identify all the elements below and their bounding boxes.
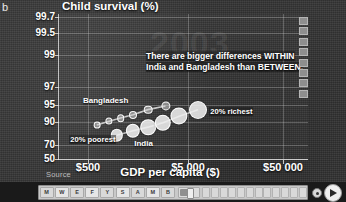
source-label[interactable]: Source [46,170,71,179]
timeline-cell-8[interactable]: B [161,187,175,198]
timeline-cell-1[interactable]: W [55,187,69,198]
plot-region: BangladeshIndia20% poorest20% richest [58,14,308,160]
legend-swatch-1[interactable] [299,27,308,35]
y-tick-mark-7 [55,159,59,160]
quintile-label-1: 20% richest [209,107,253,116]
y-tick-label-6: 70 [44,140,55,150]
legend-swatch-2[interactable] [299,38,308,46]
play-triangle-icon [330,189,337,197]
bubble-series-layer: BangladeshIndia20% poorest20% richest [58,14,308,160]
timeline-cell-4[interactable]: Y [100,187,114,198]
y-axis-title: Child survival (%) [62,0,159,13]
timeline-cell-5[interactable]: S [116,187,130,198]
bubble-india-5[interactable] [189,101,207,119]
progress-knob[interactable] [187,188,194,199]
annotation-line-1: There are bigger differences WITHIN [146,51,295,61]
timeline-cell-7[interactable]: M [146,187,160,198]
bubble-bangladesh-0[interactable] [93,122,100,129]
bottom-control-bar: MWEFYSAMB [0,182,346,202]
speed-dial-icon[interactable] [312,188,322,198]
bubble-bangladesh-4[interactable] [144,105,153,114]
chart-area: 2003 BangladeshIndia20% poorest20% riche… [58,14,308,160]
legend-swatch-3[interactable] [299,48,308,56]
timeline-tick-2[interactable] [220,187,228,198]
quintile-label-0: 20% poorest [69,135,116,144]
legend-swatch-6[interactable] [299,79,308,87]
timeline-tick-1[interactable] [211,187,219,198]
bubble-india-2[interactable] [140,119,156,135]
y-tick-label-2: 99 [44,50,55,60]
bubble-bangladesh-2[interactable] [117,114,125,122]
y-tick-mark-4 [55,105,59,106]
timeline-tick-6[interactable] [255,187,263,198]
gapminder-chart-screenshot: b Child survival (%) 2003 BangladeshIndi… [0,0,346,202]
y-tick-mark-1 [55,33,59,34]
legend-swatch-4[interactable] [299,59,308,67]
timeline-cell-2[interactable]: E [70,187,84,198]
region-color-legend[interactable] [299,17,308,100]
timeline-tick-4[interactable] [237,187,245,198]
y-tick-label-3: 97 [44,82,55,92]
legend-swatch-5[interactable] [299,69,308,77]
y-tick-label-7: 50 [44,154,55,164]
x-axis-title: GDP per capita ($) [120,166,220,179]
y-tick-mark-3 [55,87,59,88]
timeline-tick-9[interactable] [281,187,289,198]
y-tick-mark-6 [55,145,59,146]
x-tick-mark-0 [88,160,89,164]
annotation-line-2: India and Bangladesh than BETWEEN. [146,62,303,72]
timeline-tick-10[interactable] [290,187,298,198]
series-label-bangladesh: Bangladesh [83,96,128,105]
x-tick-mark-1 [188,160,189,164]
y-tick-mark-0 [55,17,59,18]
progress-track[interactable] [178,187,200,198]
timeline-tick-3[interactable] [228,187,236,198]
legend-swatch-0[interactable] [299,17,308,25]
y-tick-label-4: 95 [44,100,55,110]
timeline-slider[interactable]: MWEFYSAMB [38,185,308,200]
x-tick-mark-2 [283,160,284,164]
legend-swatch-7[interactable] [299,90,308,98]
timeline-tick-0[interactable] [202,187,210,198]
chart-annotation: There are bigger differences WITHINIndia… [146,51,342,73]
y-tick-label-5: 90 [44,117,55,127]
y-tick-label-0: 99.7 [36,12,55,22]
bubble-bangladesh-3[interactable] [129,111,137,119]
timeline-cell-3[interactable]: F [85,187,99,198]
y-tick-mark-5 [55,122,59,123]
timeline-tick-11[interactable] [299,187,307,198]
series-label-india: India [134,139,153,148]
play-button[interactable] [324,184,342,202]
timeline-tick-7[interactable] [263,187,271,198]
y-tick-label-1: 99.5 [36,28,55,38]
timeline-tick-5[interactable] [246,187,254,198]
timeline-cell-0[interactable]: M [40,187,54,198]
y-tick-mark-2 [55,55,59,56]
timeline-cell-6[interactable]: A [131,187,145,198]
panel-letter: b [2,1,8,13]
timeline-tick-8[interactable] [272,187,280,198]
